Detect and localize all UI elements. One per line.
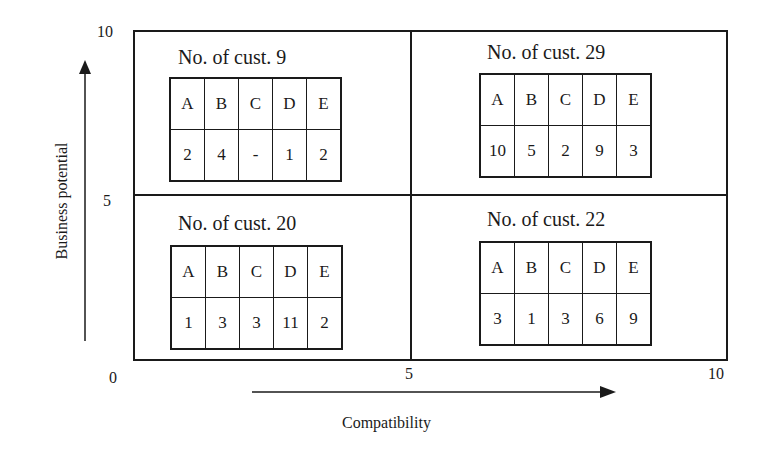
header-cell: B <box>515 242 549 294</box>
value-cell: 3 <box>549 294 583 346</box>
header-cell: D <box>274 246 308 298</box>
value-cell: 3 <box>480 294 515 346</box>
quadrant-bottom-left-table: A B C D E 1 3 3 11 2 <box>170 245 343 350</box>
header-cell: A <box>171 246 206 298</box>
value-cell: 3 <box>240 298 274 350</box>
x-tick-5: 5 <box>405 366 413 382</box>
header-cell: E <box>617 74 652 126</box>
header-cell: B <box>515 74 549 126</box>
quadrant-top-right-table: A B C D E 10 5 2 9 3 <box>479 73 652 178</box>
value-cell: 9 <box>583 126 617 178</box>
quadrant-top-left-table: A B C D E 2 4 - 1 2 <box>169 77 342 182</box>
y-tick-10: 10 <box>97 24 113 40</box>
header-cell: E <box>307 78 342 130</box>
value-cell: 5 <box>515 126 549 178</box>
value-cell: 2 <box>307 130 342 182</box>
value-cell: 3 <box>617 126 652 178</box>
quadrant-top-right-title: No. of cust. 29 <box>487 41 605 63</box>
quadrant-bottom-left-title: No. of cust. 20 <box>178 212 296 234</box>
quadrant-bottom-right-table: A B C D E 3 1 3 6 9 <box>479 241 652 346</box>
y-tick-0: 0 <box>109 370 117 386</box>
value-cell: 11 <box>274 298 308 350</box>
header-cell: D <box>583 242 617 294</box>
header-cell: D <box>583 74 617 126</box>
y-axis-arrow-icon <box>76 58 96 343</box>
header-cell: D <box>273 78 307 130</box>
value-cell: 9 <box>617 294 652 346</box>
value-cell: 4 <box>205 130 239 182</box>
horizontal-divider <box>133 194 726 196</box>
value-cell: 3 <box>206 298 240 350</box>
value-cell: 1 <box>515 294 549 346</box>
header-cell: B <box>205 78 239 130</box>
x-axis-arrow-icon <box>250 384 620 400</box>
header-cell: A <box>170 78 205 130</box>
header-cell: C <box>549 74 583 126</box>
header-cell: A <box>480 74 515 126</box>
x-tick-10: 10 <box>708 366 724 382</box>
quadrant-bottom-right-title: No. of cust. 22 <box>487 208 605 230</box>
header-cell: C <box>239 78 273 130</box>
value-cell: 6 <box>583 294 617 346</box>
header-cell: B <box>206 246 240 298</box>
value-cell: 10 <box>480 126 515 178</box>
x-axis-label: Compatibility <box>342 414 431 432</box>
value-cell: 1 <box>273 130 307 182</box>
value-cell: 2 <box>170 130 205 182</box>
header-cell: A <box>480 242 515 294</box>
header-cell: E <box>617 242 652 294</box>
value-cell: 2 <box>549 126 583 178</box>
header-cell: E <box>308 246 343 298</box>
quadrant-top-left-title: No. of cust. 9 <box>178 46 286 68</box>
value-cell: 2 <box>308 298 343 350</box>
value-cell: - <box>239 130 273 182</box>
value-cell: 1 <box>171 298 206 350</box>
y-tick-5: 5 <box>103 193 111 209</box>
y-axis-label: Business potential <box>53 126 71 276</box>
header-cell: C <box>549 242 583 294</box>
header-cell: C <box>240 246 274 298</box>
